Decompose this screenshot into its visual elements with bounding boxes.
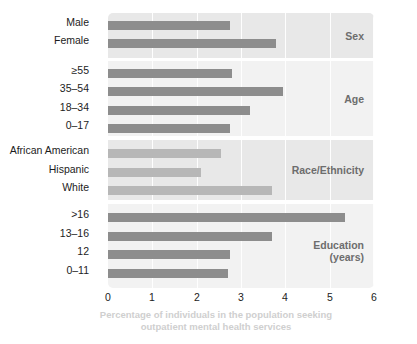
group-label-sex: Sex xyxy=(345,30,364,42)
xtick-3: 3 xyxy=(229,290,253,304)
caption-line-1: Percentage of individuals in the populat… xyxy=(66,309,366,321)
bar-age-35-54 xyxy=(108,87,283,96)
gridline-4 xyxy=(285,13,286,288)
bar-male xyxy=(108,21,230,30)
category-label-male: Male xyxy=(66,17,89,28)
plot-area: Sex Age Race/Ethnicity Education (years) xyxy=(108,13,374,288)
group-label-education-line2: (years) xyxy=(313,251,364,263)
category-label-education-gt16: >16 xyxy=(71,209,89,220)
bar-education-0-11 xyxy=(108,269,228,278)
xtick-6: 6 xyxy=(362,290,386,304)
bar-female xyxy=(108,39,276,48)
bar-african-american xyxy=(108,149,221,158)
category-label-age-0-17: 0–17 xyxy=(66,120,89,131)
bar-education-12 xyxy=(108,250,230,259)
bar-chart-figure: Sex Age Race/Ethnicity Education (years)… xyxy=(0,0,417,344)
xtick-5: 5 xyxy=(318,290,342,304)
category-label-female: Female xyxy=(54,35,89,46)
bar-age-18-34 xyxy=(108,106,250,115)
category-label-education-12: 12 xyxy=(77,246,89,257)
category-label-hispanic: Hispanic xyxy=(49,164,89,175)
bar-white xyxy=(108,186,272,195)
xtick-0: 0 xyxy=(96,290,120,304)
category-label-age-55-plus: ≥55 xyxy=(72,65,89,76)
category-label-white: White xyxy=(62,182,89,193)
bar-education-13-16 xyxy=(108,232,272,241)
group-label-education: Education (years) xyxy=(313,239,364,263)
group-label-education-line1: Education xyxy=(313,239,364,251)
xtick-4: 4 xyxy=(273,290,297,304)
group-label-race-ethnicity: Race/Ethnicity xyxy=(292,164,364,176)
xtick-1: 1 xyxy=(140,290,164,304)
gridline-6 xyxy=(373,13,374,288)
value-axis: 0 1 2 3 4 5 6 xyxy=(108,290,374,306)
axis-title-caption: Percentage of individuals in the populat… xyxy=(66,309,366,333)
xtick-2: 2 xyxy=(185,290,209,304)
category-label-african-american: African American xyxy=(10,145,89,156)
bar-age-55-plus xyxy=(108,69,232,78)
category-label-age-18-34: 18–34 xyxy=(60,102,89,113)
caption-line-2: outpatient mental health services xyxy=(66,321,366,333)
gridline-3 xyxy=(241,13,242,288)
category-label-education-13-16: 13–16 xyxy=(60,228,89,239)
bar-age-0-17 xyxy=(108,124,230,133)
category-axis-labels: Male Female ≥55 35–54 18–34 0–17 African… xyxy=(0,0,103,344)
category-label-age-35-54: 35–54 xyxy=(60,83,89,94)
bar-hispanic xyxy=(108,168,201,177)
group-label-age: Age xyxy=(344,93,364,105)
bar-education-gt16 xyxy=(108,213,345,222)
category-label-education-0-11: 0–11 xyxy=(66,265,89,276)
